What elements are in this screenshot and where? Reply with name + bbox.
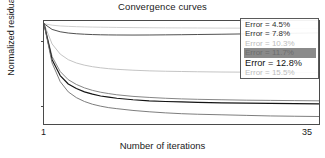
chart-title: Convergence curves [0,1,325,12]
convergence-curves-figure: Convergence curves Normalized residual 1… [0,0,325,158]
legend-item-1[interactable]: Error = 7.8% [244,29,316,38]
legend-item-2[interactable]: Error = 10.3% [244,39,316,48]
legend-item-4[interactable]: Error = 12.8% [244,58,316,68]
x-tick-label-left: 1 [41,127,46,137]
legend-item-3[interactable]: Error = 11.7% [244,48,316,57]
x-axis-label: Number of iterations [0,140,325,151]
legend-item-5[interactable]: Error = 15.5% [244,68,316,77]
legend[interactable]: Error = 4.5%Error = 7.8%Error = 10.3%Err… [240,18,319,79]
x-tick-label-right: 35 [302,127,312,137]
legend-item-0[interactable]: Error = 4.5% [244,20,316,29]
y-axis-label: Normalized residual [6,0,16,94]
